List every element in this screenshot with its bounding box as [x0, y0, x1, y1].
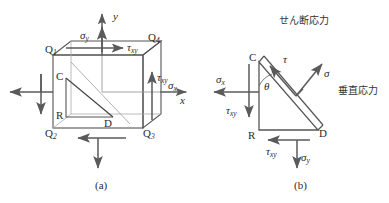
wedge-sigma-y-subscript: y — [306, 156, 309, 165]
cut-vertex-d-label-a: D — [104, 118, 112, 129]
corner-q1-symbol: Q — [45, 43, 53, 55]
sigma-x-right-subscript: x — [173, 84, 176, 93]
wedge-tau-xy-left-subscript: xy — [230, 109, 237, 118]
tau-xy-right-subscript: xy — [161, 76, 168, 85]
corner-q2-symbol: Q — [45, 127, 53, 139]
sigma-normal-label: σ — [324, 68, 329, 79]
caption-b: (b) — [294, 180, 307, 191]
corner-q1-subscript: 1 — [53, 48, 57, 57]
stress-figure: y x σy τxy τxy σx Q1 Q4 Q2 Q3 C R D (a) … — [0, 0, 389, 203]
wedge-tau-xy-bottom-label: τxy — [266, 146, 277, 158]
corner-q3-subscript: 3 — [151, 132, 155, 141]
corner-q4-symbol: Q — [148, 31, 156, 43]
tau-incline-label: τ — [283, 54, 287, 65]
cut-vertex-r-label-a: R — [56, 110, 63, 121]
corner-q2-subscript: 2 — [53, 132, 57, 141]
corner-q1-label: Q1 — [45, 44, 57, 56]
tau-xy-top-subscript: xy — [131, 46, 138, 55]
wedge-vertex-d-label: D — [319, 128, 327, 139]
y-axis-label: y — [113, 11, 118, 22]
normal-stress-annotation: 垂直応力 — [338, 86, 378, 96]
wedge-sigma-x-subscript: x — [221, 78, 224, 87]
wedge-sigma-y-label: σy — [301, 152, 310, 164]
shear-stress-annotation: せん断応力 — [279, 16, 329, 26]
corner-q3-symbol: Q — [143, 127, 151, 139]
corner-q4-subscript: 4 — [156, 36, 160, 45]
figure-vector-layer — [0, 0, 389, 203]
wedge-vertex-r-label: R — [248, 130, 255, 141]
sigma-x-right-label: σx — [168, 80, 177, 92]
sigma-y-top-subscript: y — [85, 34, 88, 43]
sigma-arrow-normal — [296, 64, 322, 96]
cut-vertex-c-label-a: C — [56, 71, 63, 82]
tau-xy-top-label: τxy — [127, 42, 138, 54]
cut-plane-diagonal — [66, 78, 113, 117]
tau-xy-right-label: τxy — [157, 72, 168, 84]
wedge-tau-xy-bottom-subscript: xy — [270, 150, 277, 159]
wedge-inclined-face — [259, 56, 323, 130]
caption-a: (a) — [95, 180, 107, 191]
wedge-tau-xy-left-label: τxy — [226, 105, 237, 117]
x-axis-label: x — [180, 95, 185, 106]
corner-q2-label: Q2 — [45, 128, 57, 140]
corner-q4-label: Q4 — [148, 32, 160, 44]
sigma-y-top-label: σy — [80, 30, 89, 42]
theta-angle-label: θ — [264, 81, 269, 92]
cut-plane-trace — [71, 62, 130, 124]
corner-q3-label: Q3 — [143, 128, 155, 140]
wedge-outline — [259, 62, 318, 130]
wedge-sigma-x-label: σx — [216, 74, 225, 86]
wedge-vertex-c-label: C — [249, 52, 256, 63]
